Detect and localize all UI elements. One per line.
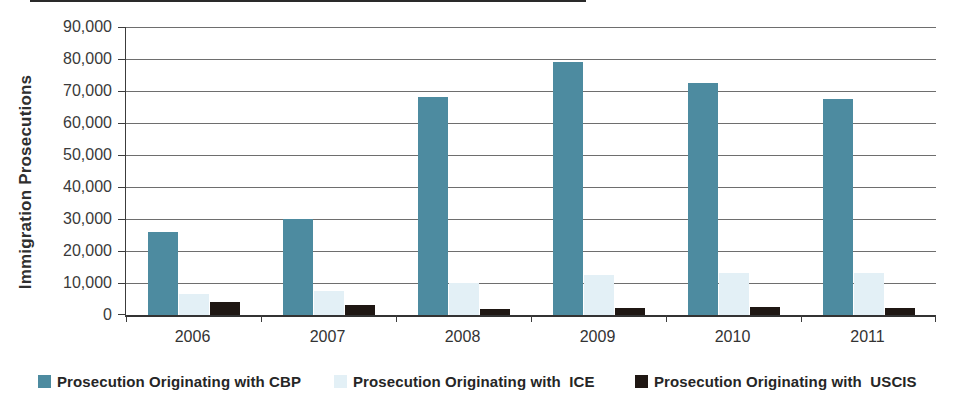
bar-uscis-2008 <box>480 309 510 315</box>
plot-area <box>125 27 936 317</box>
y-tick-label-70000: 70,000 <box>0 82 112 100</box>
gridline-80000 <box>126 59 936 60</box>
gridline-20000 <box>126 251 936 252</box>
y-tick-mark-20000 <box>118 251 126 252</box>
y-tick-label-0: 0 <box>0 306 112 324</box>
bar-cbp-2006 <box>148 232 178 315</box>
y-tick-label-20000: 20,000 <box>0 242 112 260</box>
bar-cbp-2007 <box>283 219 313 315</box>
gridline-90000 <box>126 27 936 28</box>
y-tick-mark-70000 <box>118 91 126 92</box>
y-tick-label-10000: 10,000 <box>0 274 112 292</box>
x-tick-mark-2 <box>396 315 397 322</box>
bar-cbp-2011 <box>823 99 853 315</box>
x-category-label-2011: 2011 <box>823 328 913 346</box>
bar-uscis-2010 <box>750 307 780 315</box>
bar-ice-2010 <box>719 273 749 315</box>
y-tick-mark-50000 <box>118 155 126 156</box>
legend-label-uscis: Prosecution Originating with USCIS <box>654 373 917 390</box>
y-tick-label-80000: 80,000 <box>0 50 112 68</box>
bar-uscis-2011 <box>885 308 915 315</box>
x-tick-mark-3 <box>531 315 532 322</box>
legend-label-ice: Prosecution Originating with ICE <box>353 373 595 390</box>
bar-ice-2008 <box>449 283 479 315</box>
y-tick-label-90000: 90,000 <box>0 18 112 36</box>
legend-swatch-ice <box>334 375 347 388</box>
bar-ice-2007 <box>314 291 344 315</box>
legend-item-cbp: Prosecution Originating with CBP <box>38 371 301 391</box>
legend-label-cbp: Prosecution Originating with CBP <box>57 373 301 390</box>
gridline-10000 <box>126 283 936 284</box>
chart-legend: Prosecution Originating with CBP Prosecu… <box>0 371 972 393</box>
legend-item-uscis: Prosecution Originating with USCIS <box>635 371 917 391</box>
scan-edge-artifact <box>30 0 586 2</box>
bar-ice-2011 <box>854 273 884 315</box>
y-tick-mark-90000 <box>118 27 126 28</box>
y-tick-label-40000: 40,000 <box>0 178 112 196</box>
x-tick-mark-1 <box>261 315 262 322</box>
gridline-30000 <box>126 219 936 220</box>
x-tick-mark-6 <box>935 315 936 322</box>
bar-cbp-2009 <box>553 62 583 315</box>
bar-ice-2009 <box>584 275 614 315</box>
bar-ice-2006 <box>179 294 209 315</box>
x-category-label-2010: 2010 <box>688 328 778 346</box>
y-tick-label-60000: 60,000 <box>0 114 112 132</box>
legend-swatch-uscis <box>635 375 648 388</box>
x-category-label-2007: 2007 <box>283 328 373 346</box>
x-tick-mark-0 <box>126 315 127 322</box>
y-tick-mark-40000 <box>118 187 126 188</box>
y-tick-label-50000: 50,000 <box>0 146 112 164</box>
gridline-50000 <box>126 155 936 156</box>
legend-swatch-cbp <box>38 375 51 388</box>
x-tick-mark-5 <box>801 315 802 322</box>
x-tick-mark-4 <box>666 315 667 322</box>
bar-uscis-2006 <box>210 302 240 315</box>
bar-cbp-2008 <box>418 97 448 315</box>
y-tick-mark-10000 <box>118 283 126 284</box>
bar-cbp-2010 <box>688 83 718 315</box>
y-tick-label-30000: 30,000 <box>0 210 112 228</box>
y-tick-mark-80000 <box>118 59 126 60</box>
legend-item-ice: Prosecution Originating with ICE <box>334 371 595 391</box>
y-tick-mark-60000 <box>118 123 126 124</box>
x-category-label-2006: 2006 <box>148 328 238 346</box>
x-category-label-2008: 2008 <box>418 328 508 346</box>
y-tick-mark-0 <box>118 314 126 315</box>
gridline-40000 <box>126 187 936 188</box>
bar-uscis-2007 <box>345 305 375 315</box>
gridline-70000 <box>126 91 936 92</box>
bar-uscis-2009 <box>615 308 645 315</box>
y-tick-mark-30000 <box>118 219 126 220</box>
x-category-label-2009: 2009 <box>553 328 643 346</box>
gridline-60000 <box>126 123 936 124</box>
bar-chart-figure: Immigration Prosecutions 010,00020,00030… <box>0 0 972 408</box>
